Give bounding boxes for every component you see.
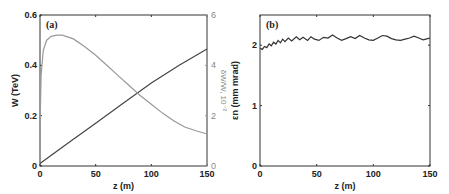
y-tick-label: 0.4 bbox=[24, 60, 37, 70]
figure: 05010015000.20.40.60246δW/W, 10⁻²(a)z (m… bbox=[0, 0, 449, 194]
x-tick-label: 0 bbox=[37, 169, 42, 179]
y-right-tick-label: 4 bbox=[211, 60, 216, 70]
panel-label: (b) bbox=[266, 19, 278, 31]
y-right-tick-label: 2 bbox=[211, 111, 216, 121]
panel-label: (a) bbox=[46, 19, 58, 31]
y-right-tick-label: 6 bbox=[211, 10, 216, 20]
series-line bbox=[260, 35, 430, 50]
y-axis-label: W (TeV) bbox=[10, 74, 20, 107]
x-tick-label: 100 bbox=[144, 169, 159, 179]
x-axis-label: z (m) bbox=[335, 181, 356, 191]
series-line bbox=[40, 35, 207, 134]
series-line bbox=[40, 49, 207, 164]
y-tick-label: 2 bbox=[252, 40, 257, 50]
y-right-tick-label: 0 bbox=[211, 161, 216, 171]
y-axis-label: εn (mm mrad) bbox=[230, 61, 240, 120]
x-axis-label: z (m) bbox=[113, 181, 134, 191]
y-tick-label: 0 bbox=[32, 161, 37, 171]
plot-frame-a bbox=[40, 15, 207, 166]
x-tick-label: 0 bbox=[257, 169, 262, 179]
x-tick-label: 50 bbox=[91, 169, 101, 179]
x-tick-label: 50 bbox=[312, 169, 322, 179]
y-tick-label: 0 bbox=[252, 161, 257, 171]
y-tick-label: 0.6 bbox=[24, 10, 37, 20]
y-tick-label: 0.2 bbox=[24, 111, 37, 121]
plot-frame-b bbox=[260, 15, 430, 166]
y-tick-label: 1 bbox=[252, 101, 257, 111]
x-tick-label: 100 bbox=[366, 169, 381, 179]
x-tick-label: 150 bbox=[422, 169, 437, 179]
y-right-axis-label: δW/W, 10⁻² bbox=[219, 70, 228, 112]
